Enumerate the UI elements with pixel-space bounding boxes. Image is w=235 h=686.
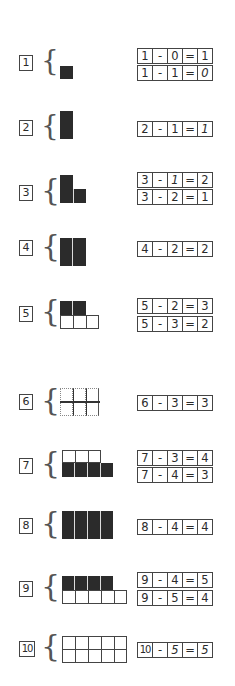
white-block <box>75 636 89 650</box>
brace-icon: { <box>41 568 60 603</box>
equation: 10 - 5 = 5 <box>137 642 213 656</box>
eq-cell: 5 <box>197 572 213 588</box>
eq-cell: - <box>152 572 168 588</box>
black-block <box>101 463 113 477</box>
black-block <box>88 511 101 525</box>
white-block <box>114 590 127 604</box>
eq-cell: - <box>152 241 168 257</box>
eq-cell: = <box>182 590 198 606</box>
eq-cell: 9 <box>137 572 153 588</box>
black-block <box>73 189 86 203</box>
eq-cell: 5 <box>197 642 213 658</box>
black-block <box>75 511 88 525</box>
dotted-block <box>73 388 86 402</box>
white-block <box>114 649 127 663</box>
dotted-block <box>86 402 99 416</box>
white-block <box>86 315 99 329</box>
eq-cell: 2 <box>137 121 153 137</box>
eq-cell: = <box>182 450 198 466</box>
eq-cell: 0 <box>197 65 213 81</box>
black-block <box>88 576 101 590</box>
eq-cell: - <box>152 121 168 137</box>
dotted-block <box>60 388 73 402</box>
eq-cell: 5 <box>167 642 183 658</box>
eq-cell: - <box>152 642 168 658</box>
black-block <box>75 576 88 590</box>
white-block <box>88 590 102 604</box>
number-label: 8 <box>19 518 33 534</box>
eq-cell: 6 <box>137 395 153 411</box>
equation: 1 - 0 = 1 <box>137 48 213 62</box>
black-block <box>60 175 73 203</box>
equation: 7 - 3 = 4 <box>137 450 213 464</box>
number-label: 3 <box>19 185 33 201</box>
eq-cell: = <box>182 316 198 332</box>
eq-cell: = <box>182 172 198 188</box>
eq-cell: 1 <box>137 65 153 81</box>
white-block <box>101 649 115 663</box>
equation: 3 - 2 = 1 <box>137 189 213 203</box>
white-block <box>114 636 127 650</box>
eq-cell: 9 <box>137 590 153 606</box>
eq-cell: 0 <box>167 48 183 64</box>
brace-icon: { <box>41 505 60 540</box>
equation: 4 - 2 = 2 <box>137 241 213 255</box>
eq-cell: 4 <box>197 590 213 606</box>
black-block <box>62 511 75 525</box>
eq-cell: 4 <box>167 467 183 483</box>
eq-cell: 8 <box>137 519 153 535</box>
equation: 8 - 4 = 4 <box>137 519 213 533</box>
eq-cell: - <box>152 316 168 332</box>
number-label: 4 <box>19 240 33 256</box>
equation: 9 - 5 = 4 <box>137 590 213 604</box>
white-block <box>88 636 102 650</box>
brace-icon: { <box>41 382 60 417</box>
equation: 7 - 4 = 3 <box>137 467 213 481</box>
black-block <box>60 301 73 315</box>
eq-cell: 1 <box>137 48 153 64</box>
eq-cell: 3 <box>197 395 213 411</box>
eq-cell: 7 <box>137 467 153 483</box>
dotted-block <box>60 402 73 416</box>
eq-cell: 3 <box>197 298 213 314</box>
equation: 5 - 3 = 2 <box>137 316 213 330</box>
eq-cell: 1 <box>167 65 183 81</box>
eq-cell: - <box>152 450 168 466</box>
brace-icon: { <box>41 293 60 328</box>
number-label: 2 <box>19 120 33 136</box>
eq-cell: 3 <box>167 395 183 411</box>
eq-cell: 5 <box>167 590 183 606</box>
brace-icon: { <box>41 228 60 263</box>
eq-cell: 3 <box>137 189 153 205</box>
eq-cell: = <box>182 572 198 588</box>
white-block <box>101 590 115 604</box>
eq-cell: = <box>182 121 198 137</box>
white-block <box>62 636 76 650</box>
eq-cell: 1 <box>197 189 213 205</box>
equation: 3 - 1 = 2 <box>137 172 213 186</box>
white-block <box>75 649 89 663</box>
black-block <box>101 511 113 525</box>
eq-cell: 10 <box>137 642 153 658</box>
black-block <box>75 463 88 477</box>
eq-cell: - <box>152 189 168 205</box>
eq-cell: = <box>182 65 198 81</box>
black-block <box>73 301 86 315</box>
black-block <box>60 238 73 266</box>
black-block <box>62 576 75 590</box>
eq-cell: 5 <box>137 298 153 314</box>
number-label: 7 <box>19 458 33 474</box>
brace-icon: { <box>41 172 60 207</box>
eq-cell: 2 <box>197 241 213 257</box>
black-block <box>62 463 75 477</box>
white-block <box>73 315 87 329</box>
eq-cell: = <box>182 189 198 205</box>
eq-cell: = <box>182 48 198 64</box>
eq-cell: 1 <box>197 121 213 137</box>
eq-cell: 3 <box>197 467 213 483</box>
eq-cell: - <box>152 590 168 606</box>
number-label: 9 <box>19 581 33 597</box>
eq-cell: 3 <box>167 316 183 332</box>
brace-icon: { <box>41 109 59 142</box>
black-block <box>62 525 75 539</box>
